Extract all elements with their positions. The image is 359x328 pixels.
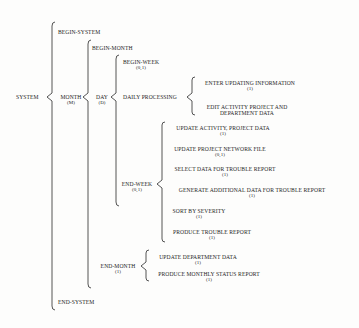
node-select-data-trouble-report: SELECT DATA FOR TROUBLE REPORT (1): [166, 166, 284, 178]
node-end-system: END-SYSTEM: [58, 299, 94, 305]
end-month-brace: [141, 250, 149, 281]
end-week-brace: [157, 122, 165, 242]
node-enter-updating-information: ENTER UPDATING INFORMATION (1): [196, 80, 304, 92]
node-produce-monthly-status-report: PRODUCE MONTHLY STATUS REPORT (1): [150, 271, 268, 283]
node-begin-month: BEGIN-MONTH: [92, 45, 133, 51]
node-produce-trouble-report: PRODUCE TROUBLE REPORT (1): [166, 229, 258, 241]
node-generate-additional-data: GENERATE ADDITIONAL DATA FOR TROUBLE REP…: [166, 187, 338, 199]
daily-processing-brace: [187, 77, 195, 115]
node-begin-week: BEGIN-WEEK (0,1): [120, 59, 162, 71]
node-end-month: END-MONTH (1): [96, 263, 140, 275]
node-end-week: END-WEEK (0,1): [119, 181, 155, 193]
node-system: SYSTEM: [16, 94, 39, 100]
warnier-orr-diagram: SYSTEM BEGIN-SYSTEM MONTH (M) END-SYSTEM…: [0, 0, 359, 328]
node-update-project-network-file: UPDATE PROJECT NETWORK FILE (0,1): [166, 146, 274, 158]
node-day: DAY (D): [93, 94, 111, 106]
node-update-department-data: UPDATE DEPARTMENT DATA (1): [150, 254, 246, 266]
node-daily-processing: DAILY PROCESSING: [123, 94, 177, 100]
node-sort-by-severity: SORT BY SEVERITY (1): [166, 208, 232, 220]
system-brace: [47, 22, 55, 310]
node-begin-system: BEGIN-SYSTEM: [58, 29, 100, 35]
node-update-activity-project-data: UPDATE ACTIVITY, PROJECT DATA (1): [166, 125, 280, 137]
node-month: MONTH (M): [57, 94, 85, 106]
day-brace: [111, 55, 119, 206]
node-edit-activity-project: EDIT ACTIVITY PROJECT AND DEPARTMENT DAT…: [196, 104, 298, 116]
month-brace: [83, 40, 91, 288]
